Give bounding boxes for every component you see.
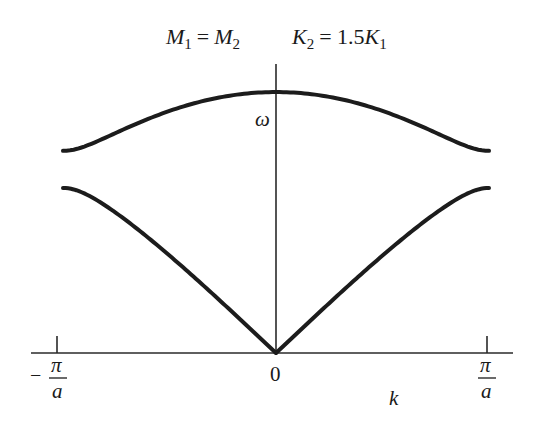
title-k2-sub: 2 bbox=[307, 36, 315, 52]
left-tick-label: − π a bbox=[30, 353, 67, 403]
title-equals-2: = 1.5 bbox=[319, 24, 364, 49]
a-denominator-right: a bbox=[481, 379, 492, 403]
pi-numerator-left: π bbox=[51, 353, 62, 377]
right-tick-label: π a bbox=[478, 353, 496, 403]
pi-numerator-right: π bbox=[480, 353, 491, 377]
title-m2: M bbox=[213, 24, 234, 49]
a-denominator-left: a bbox=[52, 379, 63, 403]
svg-text:M1=M2: M1=M2 bbox=[165, 24, 240, 52]
figure-title: M1=M2 K2= 1.5K1 bbox=[165, 24, 387, 52]
title-m2-sub: 2 bbox=[233, 36, 241, 52]
title-k1: K bbox=[364, 24, 381, 49]
minus-sign: − bbox=[30, 364, 41, 386]
svg-text:K2= 1.5K1: K2= 1.5K1 bbox=[291, 24, 387, 52]
k-label: k bbox=[389, 386, 399, 410]
title-k1-sub: 1 bbox=[379, 36, 387, 52]
title-k2: K bbox=[291, 24, 308, 49]
acoustic-branch-left-curve bbox=[63, 188, 276, 353]
title-equals-1: = bbox=[197, 24, 209, 49]
title-m1: M bbox=[165, 24, 186, 49]
origin-label: 0 bbox=[270, 362, 281, 386]
dispersion-diagram: M1=M2 K2= 1.5K1 ω 0 k − π a π a bbox=[0, 0, 540, 441]
acoustic-branch-right-curve bbox=[276, 188, 489, 353]
title-m1-sub: 1 bbox=[184, 36, 192, 52]
omega-label: ω bbox=[255, 107, 270, 131]
